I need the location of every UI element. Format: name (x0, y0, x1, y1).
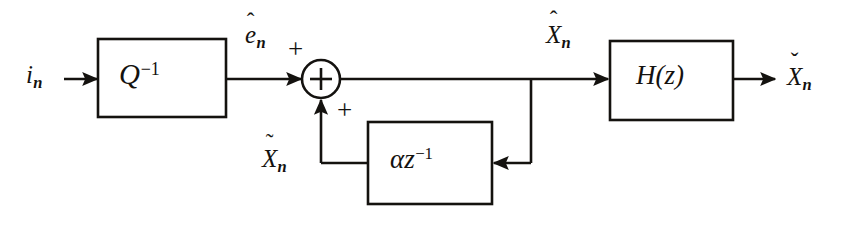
label-adder-output-signal: ˆXn (546, 22, 571, 51)
adder-input-sign-top: + (288, 36, 303, 63)
label-block-delay: αz−1 (390, 146, 433, 173)
label-quantizer-output-signal: ˆen (245, 22, 266, 51)
label-block-reconstruction-filter: H(z) (636, 62, 685, 89)
label-block-inverse-quantizer: Q−1 (119, 60, 159, 89)
block-diagram: in ˆen ˆXn ˜Xn ˇXn Q−1 αz−1 H(z) + + (0, 0, 862, 236)
adder-input-sign-bottom: + (337, 97, 352, 124)
label-feedback-signal: ˜Xn (262, 146, 287, 175)
block-inverse-quantizer (98, 39, 226, 117)
label-input-signal: in (26, 62, 42, 91)
label-output-signal: ˇXn (787, 64, 812, 93)
diagram-canvas (0, 0, 862, 236)
